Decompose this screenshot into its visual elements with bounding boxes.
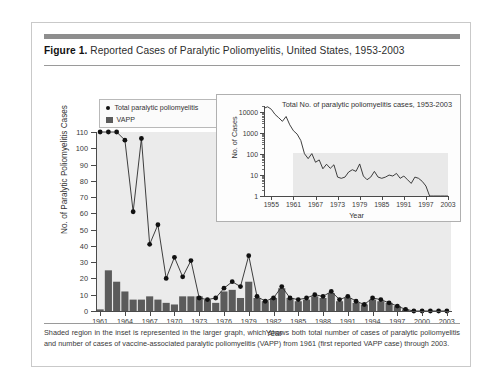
inset-y-tick [260, 175, 264, 176]
legend: Total paralytic poliomyelitis VAPP [99, 99, 227, 128]
inset-y-minor-tick [262, 160, 264, 161]
inset-x-axis-label: Year [264, 211, 449, 220]
inset-y-minor-tick [262, 183, 264, 184]
inset-shaded-region [293, 153, 448, 196]
legend-item-vapp: VAPP [106, 116, 135, 124]
inset-x-tick [271, 197, 272, 200]
inset-y-tick [260, 196, 264, 197]
main-x-tick-label: 1970 [166, 317, 182, 326]
inset-y-minor-tick [262, 181, 264, 182]
inset-x-tick-label: 2003 [440, 201, 455, 208]
main-chart: 0102030405060708090100110 19611964196719… [44, 73, 462, 321]
main-y-tick [91, 230, 96, 231]
inset-y-tick [260, 154, 264, 155]
main-x-tick-label: 1967 [142, 317, 158, 326]
inset-y-minor-tick [262, 178, 264, 179]
main-x-tick [274, 312, 275, 316]
inset-title: Total No. of paralytic poliomyelitis cas… [277, 100, 457, 110]
main-y-tick [91, 132, 96, 133]
main-x-tick [249, 312, 250, 316]
main-y-tick [91, 278, 96, 279]
inset-y-minor-tick [262, 142, 264, 143]
inset-y-minor-tick [262, 155, 264, 156]
main-x-tick [150, 312, 151, 316]
inset-y-minor-tick [262, 140, 264, 141]
main-x-tick [348, 312, 349, 316]
inset-y-minor-tick [262, 106, 264, 107]
legend-label-vapp: VAPP [117, 116, 135, 124]
main-x-tick [422, 312, 423, 316]
figure-title-lead: Figure 1. [44, 45, 87, 56]
main-x-tick [323, 312, 324, 316]
inset-x-tick-label: 1955 [264, 201, 279, 208]
main-x-tick-label: 1982 [266, 317, 282, 326]
main-x-tick [174, 312, 175, 316]
inset-y-tick [260, 112, 264, 113]
inset-y-minor-tick [262, 127, 264, 128]
inset-y-minor-tick [262, 177, 264, 178]
main-x-tick-label: 1988 [315, 317, 331, 326]
inset-y-minor-tick [262, 156, 264, 157]
main-x-tick-label: 1964 [117, 317, 133, 326]
inset-y-minor-tick [262, 123, 264, 124]
inset-x-tick-label: 1991 [396, 201, 411, 208]
inset-x-tick [293, 197, 294, 200]
main-x-tick [298, 312, 299, 316]
title-bottom-rule [44, 65, 460, 66]
inset-y-minor-tick [262, 144, 264, 145]
main-y-axis-label: No. of Paralytic Poliomyelitis Cases [60, 80, 69, 260]
main-y-tick [91, 262, 96, 263]
main-x-tick-label: 1976 [216, 317, 232, 326]
inset-y-minor-tick [262, 157, 264, 158]
inset-x-tick [382, 197, 383, 200]
main-y-tick [91, 197, 96, 198]
inset-x-tick [448, 197, 449, 200]
inset-y-minor-tick [262, 113, 264, 114]
inset-y-minor-tick [262, 186, 264, 187]
inset-chart: Total No. of paralytic poliomyelitis cas… [216, 94, 461, 222]
inset-y-tick [260, 133, 264, 134]
figure-title: Figure 1. Reported Cases of Paralytic Po… [44, 45, 462, 61]
footnote-rule [44, 323, 460, 324]
main-y-tick [91, 246, 96, 247]
main-x-tick [224, 312, 225, 316]
inset-y-minor-tick [262, 138, 264, 139]
main-y-tick-label: 0 [44, 307, 88, 316]
inset-y-minor-tick [262, 190, 264, 191]
main-x-tick-label: 1973 [191, 317, 207, 326]
main-y-tick [91, 165, 96, 166]
legend-dot-icon [106, 106, 110, 110]
main-x-tick-label: 2000 [414, 317, 430, 326]
inset-x-tick-label: 1967 [308, 201, 323, 208]
main-x-tick [447, 312, 448, 316]
main-x-tick-label: 1991 [340, 317, 356, 326]
main-y-tick-label: 20 [44, 274, 88, 283]
legend-item-total: Total paralytic poliomyelitis [106, 104, 198, 112]
inset-y-minor-tick [262, 176, 264, 177]
legend-square-icon [106, 117, 113, 124]
main-x-tick-label: 1985 [290, 317, 306, 326]
main-x-tick-label: 1997 [389, 317, 405, 326]
main-y-tick [91, 295, 96, 296]
main-x-tick [397, 312, 398, 316]
inset-x-axis-line [264, 196, 449, 197]
main-x-tick [373, 312, 374, 316]
inset-y-minor-tick [262, 148, 264, 149]
inset-x-tick-label: 1979 [352, 201, 367, 208]
main-x-tick [100, 312, 101, 316]
main-x-tick [199, 312, 200, 316]
inset-y-minor-tick [262, 116, 264, 117]
legend-label-total: Total paralytic poliomyelitis [114, 104, 198, 112]
inset-y-minor-tick [262, 162, 264, 163]
inset-x-tick [426, 197, 427, 200]
inset-y-minor-tick [262, 165, 264, 166]
main-x-tick [125, 312, 126, 316]
inset-y-minor-tick [262, 135, 264, 136]
inset-y-minor-tick [262, 159, 264, 160]
inset-x-tick-label: 1961 [286, 201, 301, 208]
main-y-tick [91, 181, 96, 182]
inset-y-minor-tick [262, 134, 264, 135]
inset-y-minor-tick [262, 119, 264, 120]
inset-y-tick-label: 1 [217, 193, 258, 200]
main-y-tick [91, 311, 96, 312]
